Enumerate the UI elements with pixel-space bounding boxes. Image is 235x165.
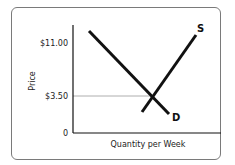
y-axis-label: Price: [28, 71, 37, 91]
supply-label: S: [197, 23, 204, 34]
supply-curve: [142, 35, 196, 112]
demand-label: D: [172, 112, 180, 123]
y-tick-11: $11.00: [40, 39, 68, 48]
demand-curve: [89, 31, 169, 114]
supply-demand-chart: $11.00 $3.50 0 Price Quantity per Week S…: [0, 0, 235, 165]
x-axis-label: Quantity per Week: [111, 140, 186, 149]
y-tick-0: 0: [63, 129, 68, 138]
y-tick-3-50: $3.50: [45, 92, 68, 101]
